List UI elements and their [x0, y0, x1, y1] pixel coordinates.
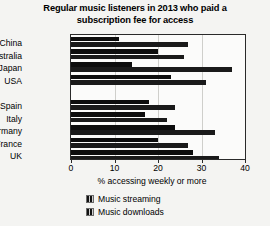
legend-item-music-downloads: Music downloads — [86, 205, 164, 218]
legend-label: Music downloads — [98, 207, 164, 217]
gridline-20 — [158, 35, 159, 159]
gridline-30 — [202, 35, 203, 159]
legend-item-music-streaming: Music streaming — [86, 192, 164, 205]
bar-china-downloads — [71, 42, 188, 47]
y-axis-label-france: France — [0, 140, 22, 149]
bar-france-streaming — [71, 138, 158, 143]
y-axis-label-usa: USA — [0, 77, 22, 86]
bar-australia-streaming — [71, 49, 158, 54]
bar-uk-downloads — [71, 156, 219, 160]
bar-usa-downloads — [71, 80, 206, 85]
chart-title-line-1: Regular music listeners in 2013 who paid… — [12, 3, 258, 15]
x-tick-label-20: 20 — [146, 163, 170, 173]
y-axis-label-china: China — [0, 39, 22, 48]
bar-usa-streaming — [71, 75, 171, 80]
y-axis-label-australia: Australia — [0, 52, 22, 61]
x-tick-label-30: 30 — [190, 163, 214, 173]
bar-italy-streaming — [71, 112, 145, 117]
bar-china-streaming — [71, 37, 119, 42]
bar-italy-downloads — [71, 118, 167, 123]
bar-uk-streaming — [71, 150, 193, 155]
y-axis-label-italy: Italy — [0, 115, 22, 124]
legend-swatch-downloads — [86, 208, 94, 216]
chart-legend: Music streamingMusic downloads — [86, 192, 164, 218]
bar-japan-downloads — [71, 67, 232, 72]
legend-label: Music streaming — [98, 194, 161, 204]
x-tick-label-0: 0 — [59, 163, 83, 173]
bar-germany-streaming — [71, 125, 175, 130]
bar-spain-downloads — [71, 105, 175, 110]
bar-australia-downloads — [71, 55, 184, 60]
y-axis-label-germany: Germany — [0, 127, 22, 136]
chart-container: Regular music listeners in 2013 who paid… — [0, 0, 270, 226]
bar-france-downloads — [71, 143, 188, 148]
chart-title-line-2: subscription fee for access — [12, 15, 258, 27]
plot-area — [70, 34, 246, 160]
bar-japan-streaming — [71, 62, 132, 67]
x-axis-title: % accessing weekly or more — [52, 176, 252, 186]
y-axis-label-spain: Spain — [0, 102, 22, 111]
bar-spain-streaming — [71, 100, 149, 105]
legend-swatch-streaming — [86, 195, 94, 203]
bar-germany-downloads — [71, 130, 215, 135]
x-tick-label-40: 40 — [233, 163, 257, 173]
y-axis-label-japan: Japan — [0, 64, 22, 73]
chart-title: Regular music listeners in 2013 who paid… — [12, 3, 258, 26]
y-axis-label-uk: UK — [0, 152, 22, 161]
x-tick-label-10: 10 — [103, 163, 127, 173]
